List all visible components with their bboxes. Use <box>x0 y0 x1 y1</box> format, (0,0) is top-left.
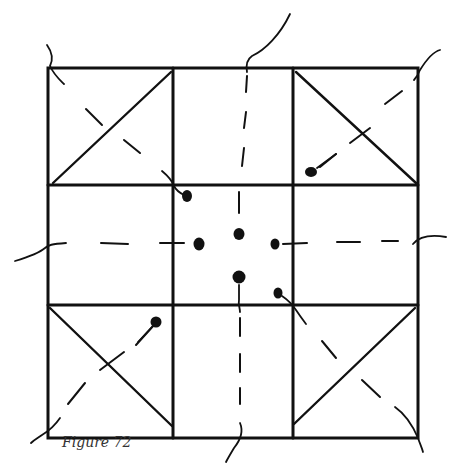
fold-dash <box>244 112 246 128</box>
fold-dash <box>362 380 380 397</box>
fold-dash <box>68 383 85 404</box>
fold-dash <box>124 140 140 153</box>
fold-dash <box>322 341 336 358</box>
marker-dot <box>194 238 205 251</box>
outer-square <box>48 68 418 438</box>
triangle-diagonal-top-left <box>53 72 171 183</box>
marker-dot <box>274 288 283 299</box>
bottom-left-dot-tail <box>138 327 152 342</box>
fold-dash <box>101 243 128 244</box>
fold-line-left-tail <box>15 243 66 261</box>
marker-dot <box>182 190 192 202</box>
triangle-diagonal-bottom-right <box>294 308 415 424</box>
marker-dot-bottom-left <box>151 317 162 328</box>
marker-dot <box>233 271 246 284</box>
fold-line-top-tail <box>247 14 290 72</box>
marker-dot <box>234 228 245 240</box>
fold-line-bottom-tail <box>226 423 242 462</box>
quilt-block-diagram <box>0 0 458 465</box>
fold-line-top-left-tail <box>47 45 64 84</box>
fold-dash <box>385 91 402 104</box>
fold-dash <box>283 243 307 244</box>
center-dot-tail <box>239 285 240 312</box>
figure-caption: Figure 72 <box>62 434 131 450</box>
fold-dash <box>246 76 247 92</box>
fold-dash <box>242 148 244 166</box>
top-right-dot-tail <box>317 154 336 168</box>
fold-line-top-right-tail <box>414 50 440 80</box>
marker-dot <box>271 239 280 250</box>
fold-dash <box>86 109 102 125</box>
marker-dot-top-right <box>305 167 317 177</box>
triangle-diagonal-top-right <box>296 72 416 183</box>
